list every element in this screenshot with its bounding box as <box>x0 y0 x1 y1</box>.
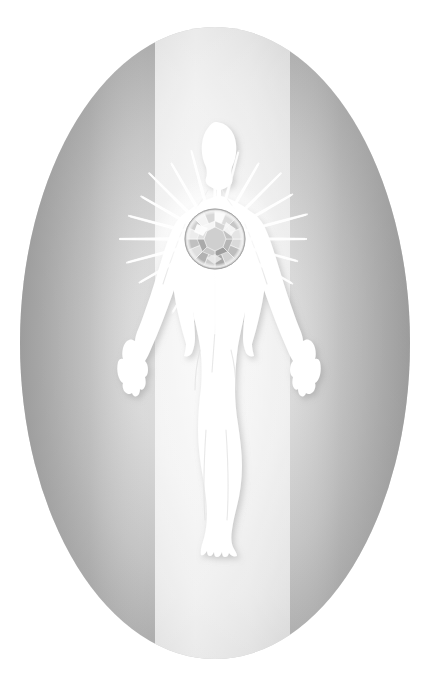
artwork-canvas <box>0 0 431 675</box>
illustration-svg <box>0 0 431 675</box>
heart-diamond <box>185 209 245 269</box>
